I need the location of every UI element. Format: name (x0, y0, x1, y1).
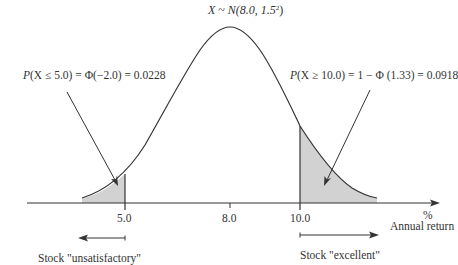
right-prob-expr: (X ≥ 10.0) = 1 − Φ (1.33) = 0.0918 (297, 69, 458, 81)
tick-label-5: 5.0 (117, 213, 131, 225)
title-close: ) (279, 3, 283, 17)
tick-label-10: 10.0 (290, 213, 310, 225)
right-probability-annotation: P(X ≥ 10.0) = 1 − Φ (1.33) = 0.0918 (290, 70, 458, 82)
title-variable: X (208, 3, 215, 17)
distribution-title: X ~ N(8.0, 1.52) (208, 4, 283, 16)
right-tail-shaded-region (300, 126, 377, 203)
unsatisfactory-label: Stock "unsatisfactory" (38, 253, 141, 265)
left-probability-annotation: P(X ≤ 5.0) = Φ(−2.0) = 0.0228 (23, 70, 165, 82)
right-pointer-arrow (327, 90, 370, 180)
title-distribution: N(8.0, 1.5 (228, 3, 276, 17)
excellent-label: Stock "excellent" (300, 250, 380, 262)
axis-label: Annual return (390, 221, 454, 233)
tick-label-8: 8.0 (222, 213, 236, 225)
left-prob-p: P (23, 69, 30, 81)
left-prob-expr: (X ≤ 5.0) = Φ(−2.0) = 0.0228 (30, 69, 165, 81)
left-pointer-arrow (67, 92, 115, 180)
title-tilde: ~ (218, 3, 225, 17)
right-prob-p: P (290, 69, 297, 81)
